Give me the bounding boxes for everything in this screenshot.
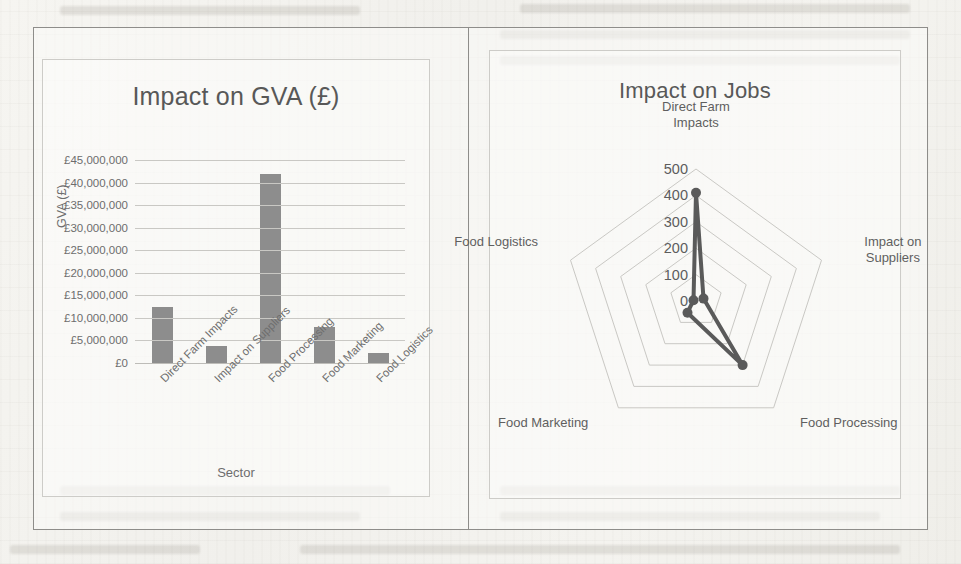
background-text-ghost — [520, 4, 910, 13]
background-text-ghost — [300, 545, 900, 554]
radar-axis-label: Food Logistics — [441, 234, 551, 250]
radar-data-point[interactable] — [689, 295, 699, 305]
jobs-radar-area: 0100200300400500 Direct Farm ImpactsImpa… — [490, 51, 900, 498]
figure-frame: Impact on GVA (£) GVA (£) £0£5,000,000£1… — [33, 27, 928, 530]
radar-tick-label: 500 — [664, 161, 688, 177]
radar-tick-label: 100 — [664, 267, 688, 283]
radar-data-series[interactable] — [688, 193, 743, 365]
gva-chart-title: Impact on GVA (£) — [43, 82, 429, 111]
gva-gridline — [135, 273, 405, 274]
radar-data-point[interactable] — [691, 188, 701, 198]
gva-bar[interactable] — [368, 353, 389, 363]
radar-axis-label: Food Marketing — [478, 415, 608, 431]
gva-gridline — [135, 205, 405, 206]
gva-y-tick-label: £10,000,000 — [64, 312, 128, 324]
figure-cell-left: Impact on GVA (£) GVA (£) £0£5,000,000£1… — [34, 28, 468, 529]
gva-bar[interactable] — [152, 307, 173, 363]
background-text-ghost — [10, 545, 200, 554]
gva-y-tick-label: £20,000,000 — [64, 267, 128, 279]
gva-chart: Impact on GVA (£) GVA (£) £0£5,000,000£1… — [42, 59, 430, 497]
gva-gridline — [135, 295, 405, 296]
radar-tick-label: 400 — [664, 187, 688, 203]
radar-axis-label: Direct Farm Impacts — [641, 99, 751, 131]
gva-gridline — [135, 160, 405, 161]
gva-y-tick-label: £5,000,000 — [70, 334, 128, 346]
gva-y-tick-label: £0 — [115, 357, 128, 369]
radar-tick-label: 300 — [664, 214, 688, 230]
radar-tick-label: 200 — [664, 240, 688, 256]
gva-y-tick-label: £45,000,000 — [64, 154, 128, 166]
radar-data-point[interactable] — [683, 308, 693, 318]
gva-y-tick-label: £35,000,000 — [64, 199, 128, 211]
gva-y-tick-label: £40,000,000 — [64, 177, 128, 189]
figure-cell-right: Impact on Jobs 0100200300400500 Direct F… — [468, 28, 927, 529]
jobs-chart: Impact on Jobs 0100200300400500 Direct F… — [489, 50, 901, 499]
gva-gridline — [135, 228, 405, 229]
radar-axis-label: Food Processing — [784, 415, 914, 431]
radar-axis-label: Impact on Suppliers — [841, 234, 945, 266]
gva-y-tick-label: £25,000,000 — [64, 244, 128, 256]
gva-gridline — [135, 183, 405, 184]
gva-y-tick-label: £15,000,000 — [64, 289, 128, 301]
gva-x-axis-title: Sector — [43, 465, 429, 480]
radar-data-point[interactable] — [738, 360, 748, 370]
radar-data-point[interactable] — [699, 294, 709, 304]
gva-bar[interactable] — [206, 346, 227, 363]
gva-gridline — [135, 250, 405, 251]
radar-tick-label: 0 — [680, 293, 688, 309]
gva-y-tick-label: £30,000,000 — [64, 222, 128, 234]
background-text-ghost — [60, 6, 360, 15]
gva-category-labels: Direct Farm ImpactsImpact on SuppliersFo… — [135, 372, 405, 462]
